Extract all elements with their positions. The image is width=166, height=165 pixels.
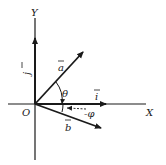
vector-b-label: b [65, 120, 71, 133]
vector-j-label: j [21, 62, 32, 77]
phi-label: -φ [84, 108, 94, 119]
svg-text:a: a [58, 62, 64, 73]
svg-text:j: j [21, 72, 32, 77]
vector-i-label: i [94, 90, 100, 102]
y-axis-label: Y [31, 7, 39, 18]
svg-text:i: i [95, 91, 98, 102]
origin-label: O [22, 107, 30, 118]
vector-a-label: a [58, 61, 64, 73]
phi-arc [62, 104, 86, 112]
x-axis-label: X [145, 107, 154, 118]
theta-label: θ [62, 88, 68, 99]
svg-text:b: b [65, 122, 71, 133]
vector-a [35, 52, 83, 104]
vector-diagram: Y X O j i a b θ -φ [0, 0, 166, 165]
